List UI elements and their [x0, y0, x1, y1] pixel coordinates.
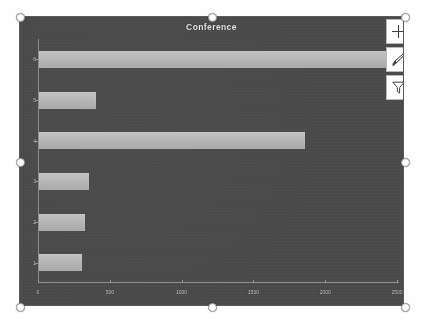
- x-tick: [397, 280, 398, 283]
- resize-handle-middle-right[interactable]: [401, 158, 410, 167]
- x-tick-label: 1500: [248, 289, 259, 295]
- resize-handle-top-center[interactable]: [208, 13, 217, 22]
- paintbrush-icon: [391, 52, 404, 67]
- y-tick-label: 2: [28, 219, 36, 225]
- chart-plot-background[interactable]: Conference 123456 05001000150020002500: [19, 16, 404, 306]
- chart-title: Conference: [20, 22, 403, 32]
- y-tick-label: 1: [28, 260, 36, 266]
- x-tick-label: 0: [37, 289, 40, 295]
- resize-handle-bottom-right[interactable]: [401, 303, 410, 312]
- bar-1[interactable]: [39, 254, 82, 271]
- bar-3[interactable]: [39, 173, 89, 190]
- bar-6[interactable]: [39, 51, 391, 68]
- funnel-icon: [391, 80, 404, 95]
- x-tick-label: 2000: [320, 289, 331, 295]
- bar-5[interactable]: [39, 92, 96, 109]
- resize-handle-bottom-center[interactable]: [208, 303, 217, 312]
- x-tick: [38, 280, 39, 283]
- resize-handle-middle-left[interactable]: [16, 158, 25, 167]
- plus-icon: [391, 24, 404, 39]
- chart-elements-button[interactable]: [386, 19, 404, 44]
- chart-object[interactable]: Conference 123456 05001000150020002500: [19, 16, 404, 306]
- x-tick: [253, 280, 254, 283]
- plot-area: 123456 05001000150020002500: [38, 39, 399, 283]
- x-tick: [325, 280, 326, 283]
- x-tick: [110, 280, 111, 283]
- x-tick-label: 2500: [391, 289, 402, 295]
- bar-2[interactable]: [39, 214, 85, 231]
- y-tick-label: 6: [28, 56, 36, 62]
- x-tick: [182, 280, 183, 283]
- resize-handle-bottom-left[interactable]: [16, 303, 25, 312]
- y-tick-label: 4: [28, 138, 36, 144]
- y-axis-line: [38, 39, 39, 283]
- chart-styles-button[interactable]: [386, 47, 404, 72]
- x-tick-label: 1000: [176, 289, 187, 295]
- slide-canvas: Conference 123456 05001000150020002500: [0, 0, 423, 322]
- resize-handle-top-left[interactable]: [16, 13, 25, 22]
- chart-tool-buttons: [386, 19, 404, 100]
- x-tick-label: 500: [106, 289, 114, 295]
- y-tick-label: 3: [28, 178, 36, 184]
- x-axis-line: [38, 282, 399, 283]
- y-tick-label: 5: [28, 97, 36, 103]
- resize-handle-top-right[interactable]: [401, 13, 410, 22]
- chart-filters-button[interactable]: [386, 75, 404, 100]
- bar-4[interactable]: [39, 132, 305, 149]
